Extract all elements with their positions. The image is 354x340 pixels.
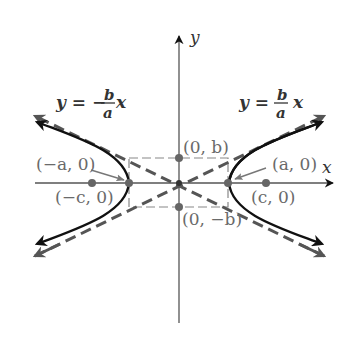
positive-asymptote-equation: y = b a x [238, 86, 304, 122]
svg-text:y = −: y = − [55, 92, 106, 112]
equation-variable: x [292, 92, 304, 112]
top-covertex-point [175, 154, 183, 162]
equation-denominator: a [276, 104, 286, 122]
origin-point [176, 180, 182, 186]
left-vertex-point [125, 179, 133, 187]
right-vertex-label: (a, 0) [272, 154, 317, 174]
left-vertex-pointer-arrow [91, 170, 124, 180]
hyperbola-diagram: y x (−a, 0) (a, 0) (−c, 0) (c, 0) (0, b)… [0, 0, 354, 340]
bottom-covertex-label: (0, −b) [182, 209, 242, 229]
asymptote-positive-slope-tail [35, 244, 60, 256]
negative-asymptote-equation: y = − b a x [55, 86, 127, 122]
equation-numerator: b [277, 86, 288, 104]
asymptote-negative-slope-tail [299, 244, 324, 256]
x-axis-label: x [322, 157, 332, 177]
right-vertex-point [224, 179, 232, 187]
left-vertex-label: (−a, 0) [36, 154, 95, 174]
equation-numerator: b [104, 86, 115, 104]
right-focus-label: (c, 0) [251, 187, 295, 207]
equation-lhs: y = [238, 92, 269, 112]
left-focus-point [88, 179, 96, 187]
top-covertex-label: (0, b) [183, 137, 229, 157]
equation-variable: x [115, 92, 127, 112]
equation-denominator: a [103, 104, 113, 122]
right-vertex-pointer-arrow [235, 168, 266, 179]
equation-lhs: y = − [55, 92, 106, 112]
right-focus-point [262, 179, 270, 187]
left-focus-label: (−c, 0) [55, 187, 114, 207]
y-axis-label: y [189, 27, 200, 47]
